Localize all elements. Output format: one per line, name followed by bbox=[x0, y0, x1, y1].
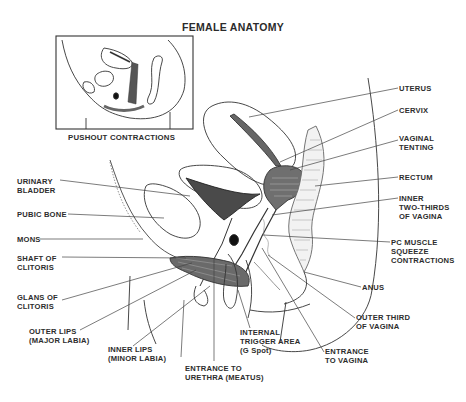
label-anus: ANUS bbox=[362, 283, 384, 292]
label-outer-third-vagina: OUTER THIRD OF VAGINA bbox=[356, 313, 410, 331]
label-urinary-bladder: URINARY BLADDER bbox=[17, 177, 56, 195]
label-mons: MONS bbox=[17, 235, 41, 244]
inset-frame bbox=[56, 36, 193, 129]
label-text: OUTER THIRD bbox=[356, 313, 410, 322]
label-pubic-bone: PUBIC BONE bbox=[17, 210, 67, 219]
label-rectum: RECTUM bbox=[399, 173, 433, 182]
label-entrance-urethra: ENTRANCE TO URETHRA (MEATUS) bbox=[185, 364, 264, 382]
label-text: ANUS bbox=[362, 283, 384, 292]
label-text: (G Spot) bbox=[240, 346, 300, 355]
inset-caption: PUSHOUT CONTRACTIONS bbox=[68, 133, 175, 142]
label-text: OUTER LIPS bbox=[29, 327, 89, 336]
label-text: SQUEEZE bbox=[391, 247, 455, 256]
label-text: PUBIC BONE bbox=[17, 210, 67, 219]
label-text: ENTRANCE TO bbox=[185, 364, 264, 373]
label-text: OF VAGINA bbox=[356, 322, 410, 331]
label-inner-two-thirds-vagina: INNER TWO-THIRDS OF VAGINA bbox=[399, 194, 450, 221]
label-text: TWO-THIRDS bbox=[399, 203, 450, 212]
label-text: (MAJOR LABIA) bbox=[29, 336, 89, 345]
label-text: VAGINAL bbox=[399, 134, 434, 143]
label-pc-muscle: PC MUSCLE SQUEEZE CONTRACTIONS bbox=[391, 238, 455, 265]
label-entrance-vagina: ENTRANCE TO VAGINA bbox=[325, 347, 369, 365]
label-text: GLANS OF bbox=[17, 293, 58, 302]
label-text: URINARY bbox=[17, 177, 56, 186]
label-text: TO VAGINA bbox=[325, 356, 369, 365]
label-shaft-clitoris: SHAFT OF CLITORIS bbox=[17, 254, 57, 272]
label-text: SHAFT OF bbox=[17, 254, 57, 263]
label-text: (MINOR LABIA) bbox=[108, 354, 166, 363]
label-text: CLITORIS bbox=[17, 263, 57, 272]
g-spot-dot bbox=[230, 235, 239, 246]
label-text: CONTRACTIONS bbox=[391, 256, 455, 265]
label-text: RECTUM bbox=[399, 173, 433, 182]
label-text: TENTING bbox=[399, 143, 434, 152]
label-text: INNER LIPS bbox=[108, 345, 166, 354]
label-text: TRIGGER AREA bbox=[240, 337, 300, 346]
label-text: URETHRA (MEATUS) bbox=[185, 373, 264, 382]
label-text: CERVIX bbox=[399, 106, 428, 115]
label-text: ENTRANCE bbox=[325, 347, 369, 356]
body-outline-right bbox=[262, 78, 379, 352]
label-inner-lips: INNER LIPS (MINOR LABIA) bbox=[108, 345, 166, 363]
label-vaginal-tenting: VAGINAL TENTING bbox=[399, 134, 434, 152]
label-text: CLITORIS bbox=[17, 302, 58, 311]
label-glans-clitoris: GLANS OF CLITORIS bbox=[17, 293, 58, 311]
label-outer-lips: OUTER LIPS (MAJOR LABIA) bbox=[29, 327, 89, 345]
label-text: UTERUS bbox=[399, 84, 431, 93]
label-text: OF VAGINA bbox=[399, 212, 450, 221]
label-text: INNER bbox=[399, 194, 450, 203]
label-g-spot: INTERNAL TRIGGER AREA (G Spot) bbox=[240, 328, 300, 355]
label-text: MONS bbox=[17, 235, 41, 244]
label-text: INTERNAL bbox=[240, 328, 300, 337]
label-cervix: CERVIX bbox=[399, 106, 428, 115]
pubic-bone-shape bbox=[144, 184, 200, 238]
label-text: BLADDER bbox=[17, 186, 56, 195]
label-text: PC MUSCLE bbox=[391, 238, 455, 247]
label-uterus: UTERUS bbox=[399, 84, 431, 93]
